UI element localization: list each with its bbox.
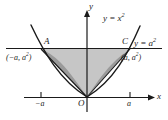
point-coord-a-tail: )	[29, 53, 32, 62]
x-axis-label: x	[157, 92, 161, 101]
x-axis-arrowhead	[148, 95, 155, 101]
y-axis-label: y	[89, 2, 93, 11]
point-coord-c: (a, a2)	[121, 54, 141, 62]
region-triangle-aoc	[41, 49, 130, 97]
point-label-c: C	[122, 37, 128, 46]
y-axis-arrowhead	[84, 10, 90, 17]
parabola-figure: y x O −a a y = x2 y = a2 A C (−a, a2) (a…	[0, 0, 168, 120]
point-coord-a-main: (−a, a	[6, 53, 26, 62]
parabola-equation-exponent: 2	[122, 12, 125, 18]
point-coord-c-main: (a, a	[121, 53, 136, 62]
parabola-equation-text: y = x	[103, 13, 122, 23]
parabola-equation-label: y = x2	[103, 14, 125, 23]
origin-label: O	[78, 99, 85, 108]
point-coord-a: (−a, a2)	[6, 54, 31, 62]
line-equation-label: y = a2	[134, 39, 156, 48]
tick-label-neg-a: −a	[35, 100, 44, 108]
point-coord-c-tail: )	[138, 53, 141, 62]
tick-label-pos-a: a	[127, 100, 131, 108]
line-equation-text: y = a	[134, 38, 153, 48]
point-label-a: A	[44, 37, 50, 46]
line-equation-exponent: 2	[153, 37, 156, 43]
